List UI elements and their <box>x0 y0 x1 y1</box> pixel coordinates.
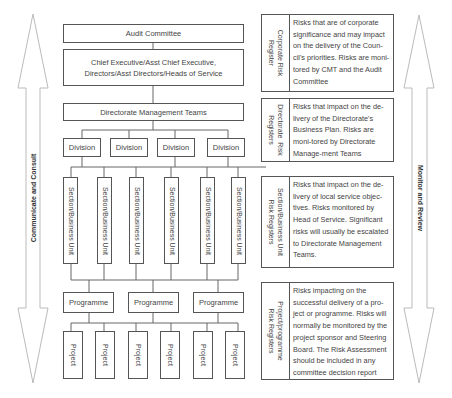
section-box: Section/Business Unit <box>231 177 246 264</box>
division-box: Division <box>110 138 148 157</box>
project-box: Project <box>128 331 148 379</box>
monitor-review-label: Monitor and Review <box>417 165 424 231</box>
register-description: Risks that are of corporate significance… <box>290 15 393 91</box>
section-box: Section/Business Unit <box>63 177 78 264</box>
corporate-risk-register: Corporate Risk Register Risks that are o… <box>261 14 394 92</box>
section-risk-registers: Section/Business Unit Risk Registers Ris… <box>261 176 394 268</box>
directorate-box: Directorate Management Teams <box>63 103 244 121</box>
project-box: Project <box>160 331 180 379</box>
project-box: Project <box>95 331 115 379</box>
register-label: Directorate Risk Registers <box>262 99 290 161</box>
project-risk-registers: Project/programme Risk Registers Risks i… <box>261 282 394 380</box>
project-box: Project <box>193 331 213 379</box>
division-box: Division <box>207 138 245 157</box>
division-box: Division <box>63 138 101 157</box>
section-box: Section/Business Unit <box>97 177 112 264</box>
division-box: Division <box>157 138 195 157</box>
programme-box: Programme <box>63 292 114 313</box>
section-box: Section/Business Unit <box>200 177 215 264</box>
section-box: Section/Business Unit <box>164 177 179 264</box>
register-description: Risks impacting on the successful delive… <box>290 283 393 379</box>
register-description: Risks that impact on the de-livery of th… <box>290 99 393 161</box>
communicate-consult-label: Communicate and Consult <box>30 154 37 243</box>
project-box: Project <box>225 331 245 379</box>
register-label: Corporate Risk Register <box>262 15 290 91</box>
register-label: Project/programme Risk Registers <box>262 283 290 379</box>
chief-executive-box: Chief Executive/Asst Chief Executive, Di… <box>63 49 244 86</box>
audit-committee-box: Audit Committee <box>63 24 244 43</box>
register-description: Risks that impact on the de-livery of lo… <box>290 177 393 267</box>
programme-box: Programme <box>128 292 179 313</box>
programme-box: Programme <box>193 292 244 313</box>
project-box: Project <box>63 331 83 379</box>
section-box: Section/Business Unit <box>129 177 144 264</box>
directorate-risk-registers: Directorate Risk Registers Risks that im… <box>261 98 394 162</box>
register-label: Section/Business Unit Risk Registers <box>262 177 290 267</box>
